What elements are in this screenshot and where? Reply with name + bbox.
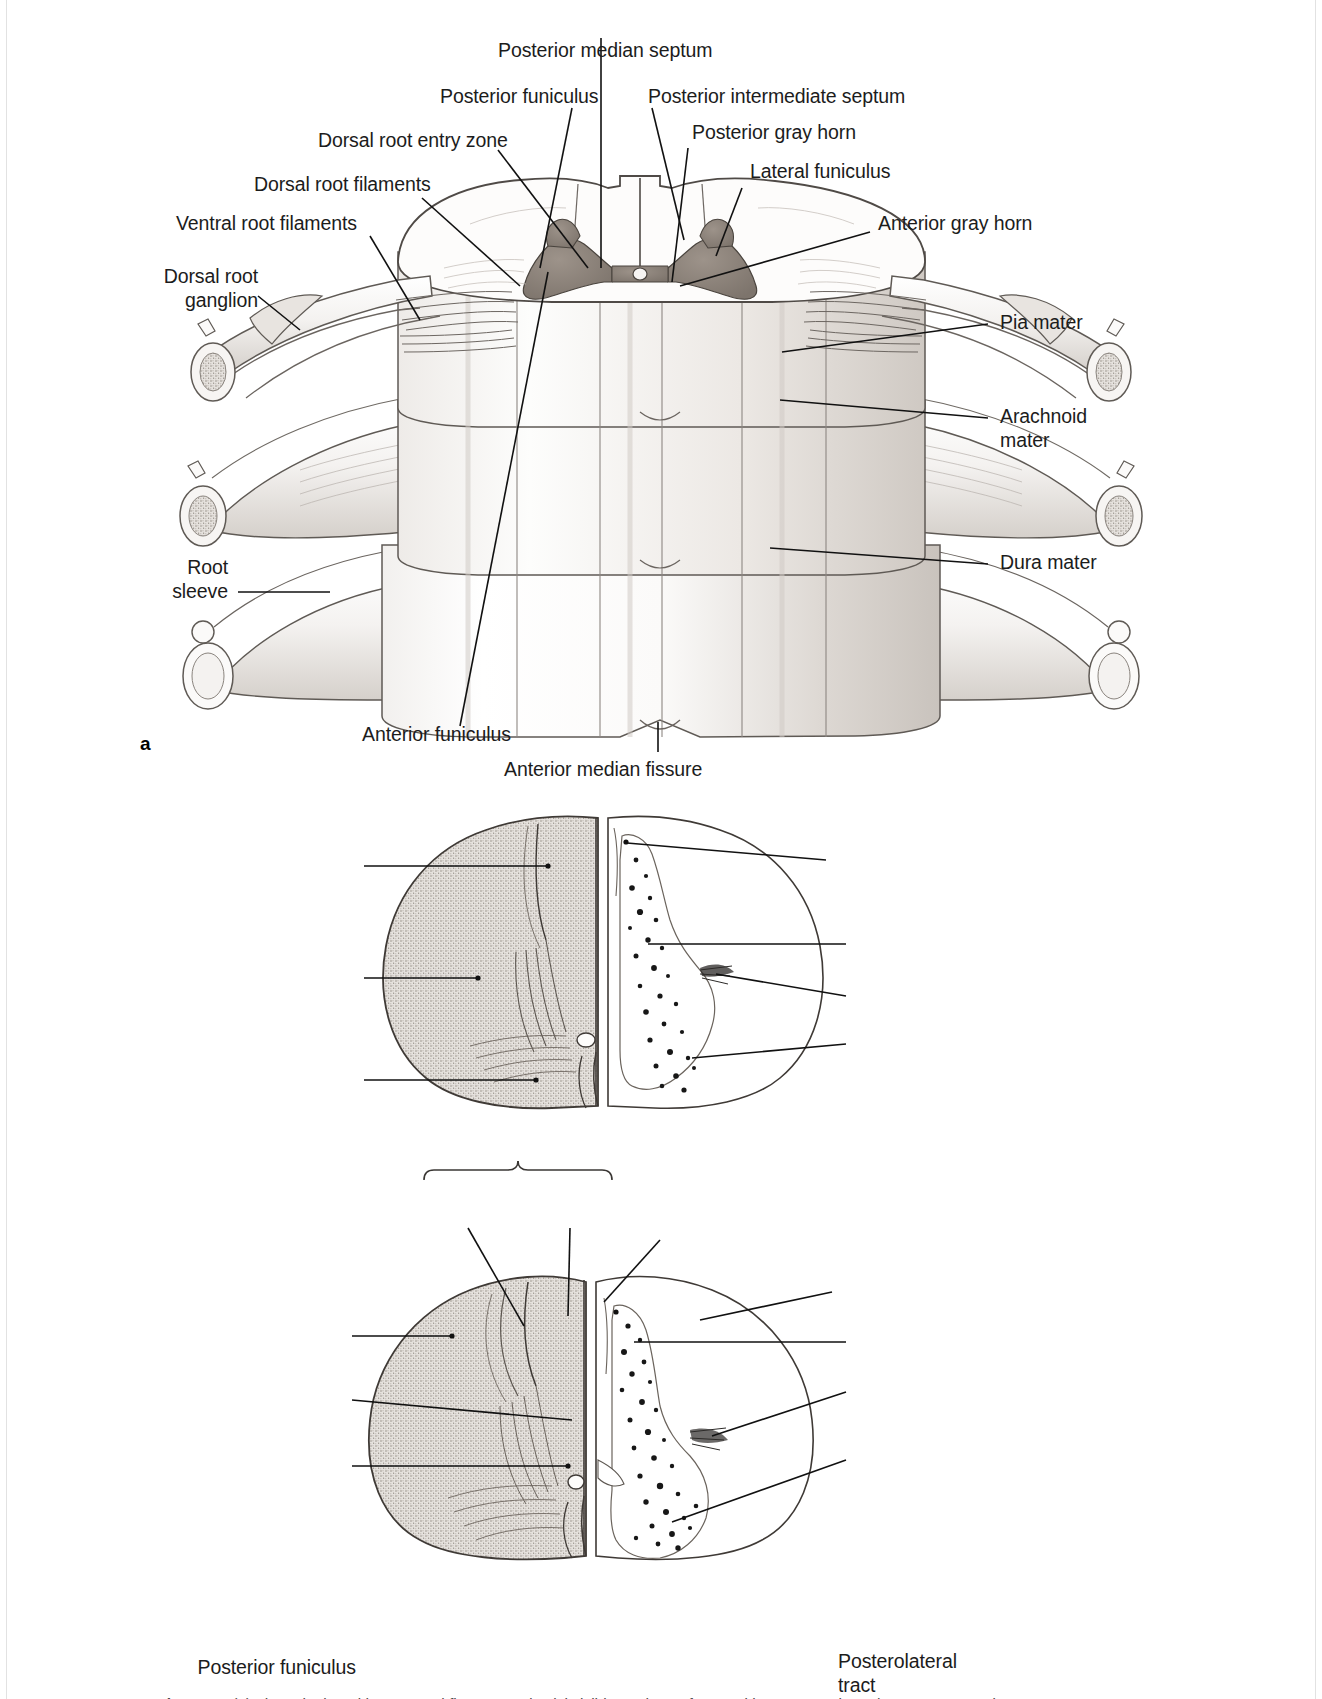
label-lateral-funiculus: Lateral funiculus bbox=[750, 159, 890, 183]
label-posterior-intermediate-septum: Posterior intermediate septum bbox=[648, 84, 905, 108]
label-dorsal-root-entry-zone: Dorsal root entry zone bbox=[318, 128, 508, 152]
panel-a-illustration bbox=[0, 0, 1322, 800]
label-posterior-gray-horn: Posterior gray horn bbox=[692, 120, 856, 144]
posterior-funiculus-brace bbox=[424, 1161, 612, 1180]
label-anterior-funiculus: Anterior funiculus bbox=[362, 722, 511, 746]
panel-b: Posterior funiculus Lateral funiculus An… bbox=[0, 800, 1322, 1130]
spinal-cord-body bbox=[382, 252, 940, 737]
label-pia-mater: Pia mater bbox=[1000, 310, 1083, 334]
panel-c: Posterior funiculus Fasciculus cuneatus … bbox=[0, 1130, 1322, 1560]
panel-b-illustration bbox=[0, 800, 1322, 1130]
label-dorsal-root-filaments: Dorsal root filaments bbox=[254, 172, 431, 196]
label-arachnoid-mater: Arachnoid mater bbox=[1000, 404, 1087, 452]
label-anterior-gray-horn: Anterior gray horn bbox=[878, 211, 1032, 235]
figure-caption-prefix: Fig. 10.16 bbox=[157, 1695, 228, 1699]
figure-caption-text: (a) The spinal cord has several fissures… bbox=[232, 1695, 1163, 1699]
panel-a-letter: a bbox=[140, 733, 151, 755]
label-dorsal-root-ganglion: Dorsal root ganglion bbox=[90, 264, 258, 312]
figure-page: Posterior median septum Posterior funicu… bbox=[0, 0, 1322, 1699]
panel-c-illustration bbox=[0, 1130, 1322, 1560]
figure-caption: Fig. 10.16 (a) The spinal cord has sever… bbox=[140, 1672, 1240, 1699]
label-anterior-median-fissure: Anterior median fissure bbox=[504, 757, 702, 781]
label-posterior-funiculus: Posterior funiculus bbox=[440, 84, 599, 108]
cervical-cord-section bbox=[369, 1276, 813, 1559]
thoracic-cord-section bbox=[383, 817, 823, 1109]
label-ventral-root-filaments: Ventral root filaments bbox=[176, 211, 357, 235]
label-posterior-median-septum: Posterior median septum bbox=[498, 38, 712, 62]
panel-a: Posterior median septum Posterior funicu… bbox=[0, 0, 1322, 800]
label-root-sleeve: Root sleeve bbox=[80, 555, 228, 603]
label-dura-mater: Dura mater bbox=[1000, 550, 1097, 574]
